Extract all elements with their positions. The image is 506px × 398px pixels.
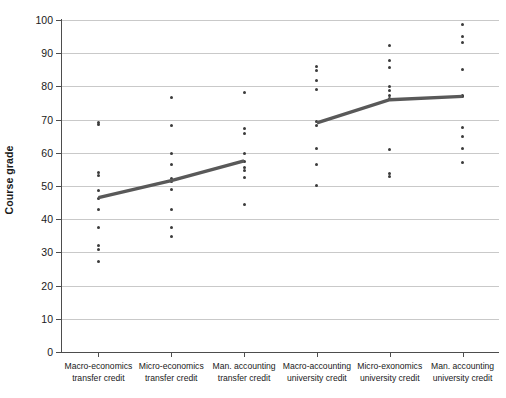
plot-area [62,20,499,352]
x-axis-label-line2: transfer credit [202,373,286,385]
x-axis-label-1: Micro-economicstransfer credit [129,361,213,384]
data-point [243,176,246,179]
data-point [97,260,100,263]
y-tick-label-100: 100 [5,15,53,26]
x-axis-label-line2: university credit [421,373,505,385]
data-point [97,174,100,177]
y-tick-label-30: 30 [5,247,53,258]
x-tick-mark-1 [171,352,172,357]
data-point [170,124,173,127]
data-point [315,120,318,123]
x-axis-label-5: Man. accountinguniversity credit [421,361,505,384]
data-point [97,248,100,251]
data-point [388,85,391,88]
data-point [461,41,464,44]
data-point [170,208,173,211]
data-point [388,89,391,92]
data-point [97,226,100,229]
y-tick-label-70: 70 [5,115,53,126]
data-point [388,175,391,178]
data-point [315,147,318,150]
x-axis-label-line1: Micro-economics [139,361,204,371]
y-tick-label-60: 60 [5,148,53,159]
x-tick-mark-2 [244,352,245,357]
data-point [315,163,318,166]
data-point [170,235,173,238]
y-tick-label-0: 0 [5,347,53,358]
x-tick-mark-5 [463,352,464,357]
data-point [170,163,173,166]
data-point [461,135,464,138]
y-tick-mark-0 [56,352,62,353]
data-point [315,184,318,187]
data-point [388,148,391,151]
data-point [97,244,100,247]
data-point [461,23,464,26]
data-point [97,197,100,200]
x-tick-mark-3 [317,352,318,357]
x-tick-mark-0 [98,352,99,357]
x-axis-label-line2: transfer credit [129,373,213,385]
data-point [97,123,100,126]
data-point [388,97,391,100]
data-point [388,66,391,69]
data-point [170,180,173,183]
x-axis-label-0: Macro-economicstransfer credit [56,361,140,384]
y-tick-label-40: 40 [5,214,53,225]
data-point [461,126,464,129]
x-tick-mark-4 [390,352,391,357]
course-grade-scatter-chart: Course grade 1009080706050403020100 Macr… [0,0,506,398]
y-tick-label-80: 80 [5,81,53,92]
data-point [243,132,246,135]
data-point [97,208,100,211]
x-axis-label-line2: university credit [275,373,359,385]
data-point [388,44,391,47]
data-point [315,79,318,82]
y-tick-label-20: 20 [5,281,53,292]
data-point [243,160,246,163]
data-point [461,68,464,71]
y-tick-label-90: 90 [5,48,53,59]
data-point [243,127,246,130]
x-axis-label-line1: Micro-exonomics [357,361,422,371]
data-point [243,169,246,172]
data-point [170,152,173,155]
data-point [315,124,318,127]
x-axis-label-line1: Man. accounting [213,361,276,371]
data-point [315,69,318,72]
x-axis-label-2: Man. accountingtransfer credit [202,361,286,384]
x-axis-label-line2: transfer credit [56,373,140,385]
data-point [170,96,173,99]
data-point [243,152,246,155]
y-tick-label-10: 10 [5,314,53,325]
data-point [97,189,100,192]
data-point [388,59,391,62]
data-point [315,65,318,68]
data-point [243,91,246,94]
data-point [461,161,464,164]
data-point [461,147,464,150]
data-point [461,35,464,38]
data-point [170,226,173,229]
data-point [315,88,318,91]
x-axis-label-line1: Man. accounting [431,361,494,371]
data-point [243,203,246,206]
x-axis-label-line2: university credit [348,373,432,385]
data-point [461,95,464,98]
y-tick-label-50: 50 [5,181,53,192]
x-axis-label-3: Macro-accountinguniversity credit [275,361,359,384]
x-axis-label-line1: Macro-accounting [283,361,351,371]
x-axis-label-4: Micro-exonomicsuniversity credit [348,361,432,384]
gridline-0 [62,352,499,353]
data-point [170,188,173,191]
x-axis-label-line1: Macro-economics [64,361,132,371]
